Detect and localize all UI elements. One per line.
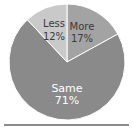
pie-svg: More 17% Less 12% Same 71% <box>0 0 133 125</box>
slice-label-less-pct: 12% <box>43 31 65 42</box>
pie-chart: More 17% Less 12% Same 71% <box>0 0 133 125</box>
slice-label-more-pct: 17% <box>71 33 93 44</box>
slice-label-more-name: More <box>70 21 95 32</box>
bottom-divider <box>4 124 129 126</box>
slice-label-less-name: Less <box>43 18 65 29</box>
slice-label-same-pct: 71% <box>55 94 79 107</box>
